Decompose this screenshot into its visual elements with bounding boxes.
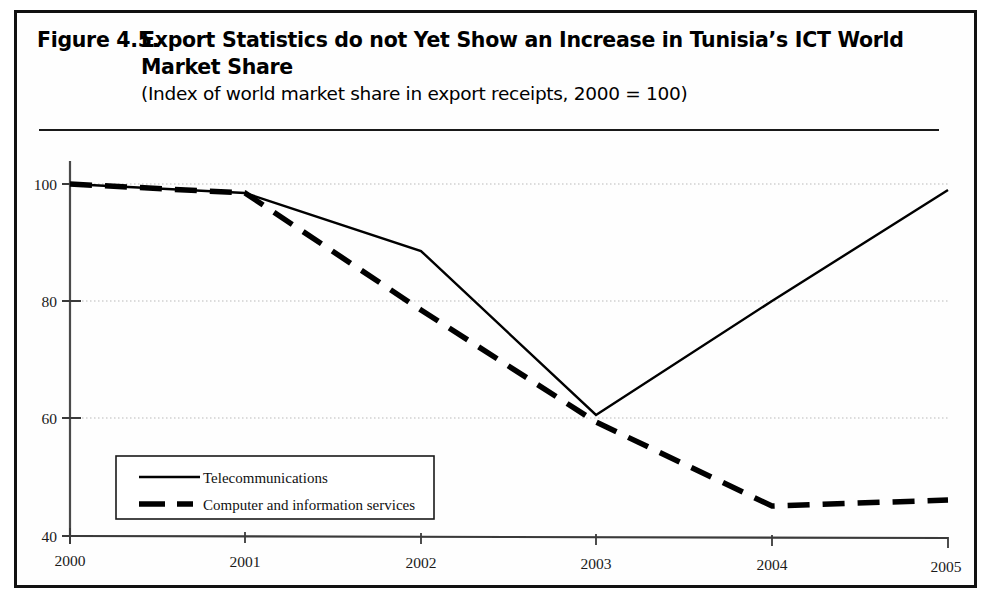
legend-label-computer-and-information-services: Computer and information services — [203, 497, 415, 513]
chart-legend: Telecommunications Computer and informat… — [116, 456, 434, 519]
x-tick-label-2004: 2004 — [757, 556, 788, 573]
x-tick-label-2000: 2000 — [55, 552, 86, 569]
figure-frame: Figure 4.5.Export Statistics do not Yet … — [14, 10, 977, 588]
y-tick-label-80: 80 — [42, 293, 58, 310]
chart-plot-area: 100 80 60 40 2000 2001 2002 2003 2004 20… — [17, 13, 980, 591]
gridlines — [70, 184, 948, 418]
chart-svg: 100 80 60 40 2000 2001 2002 2003 2004 20… — [17, 13, 980, 591]
x-tick-label-2001: 2001 — [230, 553, 261, 570]
x-axis-line — [70, 536, 948, 538]
x-tick-label-2002: 2002 — [406, 554, 437, 571]
y-tick-label-60: 60 — [42, 410, 58, 427]
y-axis-ticks — [62, 184, 81, 536]
series-line-telecommunications — [70, 184, 948, 415]
x-tick-label-2005: 2005 — [931, 558, 962, 575]
y-tick-label-100: 100 — [34, 176, 58, 193]
y-tick-label-40: 40 — [42, 528, 58, 545]
legend-label-telecommunications: Telecommunications — [203, 470, 328, 486]
x-tick-label-2003: 2003 — [581, 555, 612, 572]
